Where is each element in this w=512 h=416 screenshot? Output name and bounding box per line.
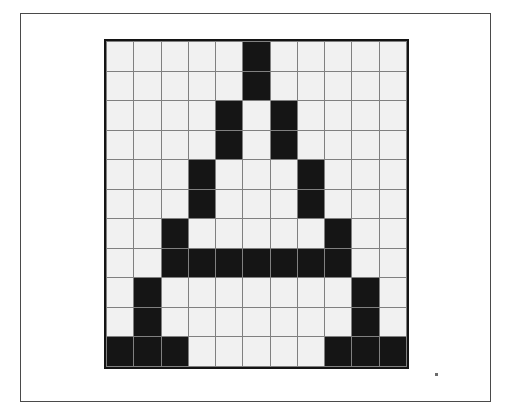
grid-cell-r4-c8[interactable] bbox=[325, 160, 351, 189]
grid-cell-r9-c2[interactable] bbox=[162, 308, 188, 337]
grid-cell-r5-c10[interactable] bbox=[380, 190, 406, 219]
grid-cell-r10-c9[interactable] bbox=[352, 337, 378, 366]
grid-cell-r7-c10[interactable] bbox=[380, 249, 406, 278]
grid-cell-r9-c8[interactable] bbox=[325, 308, 351, 337]
grid-cell-r0-c2[interactable] bbox=[162, 42, 188, 71]
grid-cell-r3-c3[interactable] bbox=[189, 131, 215, 160]
grid-cell-r2-c9[interactable] bbox=[352, 101, 378, 130]
grid-cell-r3-c10[interactable] bbox=[380, 131, 406, 160]
grid-cell-r5-c5[interactable] bbox=[243, 190, 269, 219]
grid-cell-r6-c7[interactable] bbox=[298, 219, 324, 248]
grid-cell-r4-c0[interactable] bbox=[107, 160, 133, 189]
grid-cell-r2-c1[interactable] bbox=[134, 101, 160, 130]
grid-cell-r9-c7[interactable] bbox=[298, 308, 324, 337]
grid-cell-r7-c1[interactable] bbox=[134, 249, 160, 278]
grid-cell-r10-c0[interactable] bbox=[107, 337, 133, 366]
grid-cell-r4-c1[interactable] bbox=[134, 160, 160, 189]
grid-cell-r8-c10[interactable] bbox=[380, 278, 406, 307]
grid-cell-r7-c6[interactable] bbox=[271, 249, 297, 278]
grid-cell-r8-c8[interactable] bbox=[325, 278, 351, 307]
grid-cell-r4-c9[interactable] bbox=[352, 160, 378, 189]
grid-cell-r0-c0[interactable] bbox=[107, 42, 133, 71]
grid-cell-r10-c6[interactable] bbox=[271, 337, 297, 366]
grid-cell-r3-c4[interactable] bbox=[216, 131, 242, 160]
grid-cell-r0-c5[interactable] bbox=[243, 42, 269, 71]
grid-cell-r2-c2[interactable] bbox=[162, 101, 188, 130]
grid-cell-r2-c10[interactable] bbox=[380, 101, 406, 130]
grid-cell-r8-c2[interactable] bbox=[162, 278, 188, 307]
grid-cell-r8-c5[interactable] bbox=[243, 278, 269, 307]
grid-cell-r8-c9[interactable] bbox=[352, 278, 378, 307]
grid-cell-r8-c1[interactable] bbox=[134, 278, 160, 307]
grid-cell-r10-c4[interactable] bbox=[216, 337, 242, 366]
grid-cell-r0-c3[interactable] bbox=[189, 42, 215, 71]
grid-cell-r0-c7[interactable] bbox=[298, 42, 324, 71]
grid-cell-r2-c5[interactable] bbox=[243, 101, 269, 130]
grid-cell-r5-c3[interactable] bbox=[189, 190, 215, 219]
grid-cell-r5-c8[interactable] bbox=[325, 190, 351, 219]
grid-cell-r10-c5[interactable] bbox=[243, 337, 269, 366]
grid-cell-r0-c10[interactable] bbox=[380, 42, 406, 71]
grid-cell-r3-c0[interactable] bbox=[107, 131, 133, 160]
grid-cell-r6-c2[interactable] bbox=[162, 219, 188, 248]
grid-cell-r9-c6[interactable] bbox=[271, 308, 297, 337]
grid-cell-r5-c0[interactable] bbox=[107, 190, 133, 219]
grid-cell-r0-c8[interactable] bbox=[325, 42, 351, 71]
grid-cell-r10-c2[interactable] bbox=[162, 337, 188, 366]
grid-cell-r5-c2[interactable] bbox=[162, 190, 188, 219]
grid-cell-r6-c3[interactable] bbox=[189, 219, 215, 248]
grid-cell-r2-c8[interactable] bbox=[325, 101, 351, 130]
grid-cell-r7-c7[interactable] bbox=[298, 249, 324, 278]
grid-cell-r3-c8[interactable] bbox=[325, 131, 351, 160]
grid-cell-r1-c4[interactable] bbox=[216, 72, 242, 101]
grid-cell-r2-c0[interactable] bbox=[107, 101, 133, 130]
grid-cell-r9-c3[interactable] bbox=[189, 308, 215, 337]
grid-cell-r8-c0[interactable] bbox=[107, 278, 133, 307]
grid-cell-r6-c0[interactable] bbox=[107, 219, 133, 248]
grid-cell-r9-c10[interactable] bbox=[380, 308, 406, 337]
grid-cell-r1-c5[interactable] bbox=[243, 72, 269, 101]
grid-cell-r8-c3[interactable] bbox=[189, 278, 215, 307]
grid-cell-r6-c1[interactable] bbox=[134, 219, 160, 248]
grid-cell-r7-c5[interactable] bbox=[243, 249, 269, 278]
grid-cell-r1-c10[interactable] bbox=[380, 72, 406, 101]
grid-cell-r6-c6[interactable] bbox=[271, 219, 297, 248]
grid-cell-r2-c6[interactable] bbox=[271, 101, 297, 130]
grid-cell-r3-c1[interactable] bbox=[134, 131, 160, 160]
grid-cell-r1-c0[interactable] bbox=[107, 72, 133, 101]
grid-cell-r3-c9[interactable] bbox=[352, 131, 378, 160]
grid-cell-r4-c2[interactable] bbox=[162, 160, 188, 189]
grid-cell-r0-c6[interactable] bbox=[271, 42, 297, 71]
grid-cell-r9-c4[interactable] bbox=[216, 308, 242, 337]
grid-cell-r9-c1[interactable] bbox=[134, 308, 160, 337]
grid-cell-r6-c4[interactable] bbox=[216, 219, 242, 248]
grid-cell-r10-c7[interactable] bbox=[298, 337, 324, 366]
grid-cell-r8-c7[interactable] bbox=[298, 278, 324, 307]
grid-cell-r2-c3[interactable] bbox=[189, 101, 215, 130]
grid-cell-r7-c3[interactable] bbox=[189, 249, 215, 278]
grid-cell-r10-c8[interactable] bbox=[325, 337, 351, 366]
grid-cell-r1-c9[interactable] bbox=[352, 72, 378, 101]
grid-cell-r1-c1[interactable] bbox=[134, 72, 160, 101]
grid-cell-r10-c10[interactable] bbox=[380, 337, 406, 366]
grid-cell-r7-c4[interactable] bbox=[216, 249, 242, 278]
grid-cell-r6-c9[interactable] bbox=[352, 219, 378, 248]
grid-cell-r5-c6[interactable] bbox=[271, 190, 297, 219]
grid-cell-r3-c5[interactable] bbox=[243, 131, 269, 160]
grid-cell-r10-c3[interactable] bbox=[189, 337, 215, 366]
grid-cell-r8-c6[interactable] bbox=[271, 278, 297, 307]
grid-cell-r1-c6[interactable] bbox=[271, 72, 297, 101]
grid-cell-r7-c2[interactable] bbox=[162, 249, 188, 278]
grid-cell-r9-c0[interactable] bbox=[107, 308, 133, 337]
grid-cell-r1-c2[interactable] bbox=[162, 72, 188, 101]
grid-cell-r5-c7[interactable] bbox=[298, 190, 324, 219]
grid-cell-r0-c9[interactable] bbox=[352, 42, 378, 71]
grid-cell-r3-c7[interactable] bbox=[298, 131, 324, 160]
grid-cell-r4-c4[interactable] bbox=[216, 160, 242, 189]
grid-cell-r0-c4[interactable] bbox=[216, 42, 242, 71]
grid-cell-r3-c2[interactable] bbox=[162, 131, 188, 160]
pixel-bitmap-grid[interactable] bbox=[104, 39, 409, 369]
grid-cell-r6-c8[interactable] bbox=[325, 219, 351, 248]
grid-cell-r8-c4[interactable] bbox=[216, 278, 242, 307]
grid-cell-r0-c1[interactable] bbox=[134, 42, 160, 71]
